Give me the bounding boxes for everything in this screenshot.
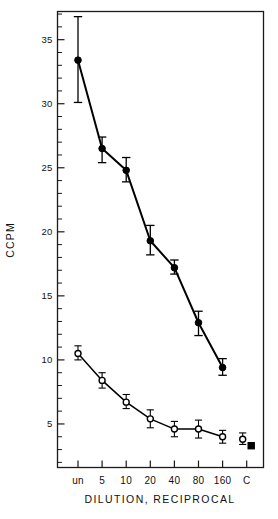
series-control-open-circle (239, 433, 246, 445)
data-point-open-circle (99, 377, 105, 383)
data-point-filled-circle (75, 57, 82, 64)
data-point-filled-circle (147, 237, 154, 244)
data-series-layer (74, 17, 255, 449)
x-axis-tick-label: 80 (193, 475, 205, 486)
data-point-open-circle (196, 426, 202, 432)
series-filled-circle-series (74, 17, 227, 376)
x-axis-title: DILUTION, RECIPROCAL (84, 493, 235, 505)
data-point-filled-circle (171, 264, 178, 271)
x-axis-tick-label: 20 (144, 475, 156, 486)
x-axis-tick-label: 40 (169, 475, 181, 486)
data-point-filled-square (248, 443, 254, 449)
data-point-open-circle (171, 426, 177, 432)
y-axis-tick-label: 5 (47, 418, 52, 429)
series-open-circle-series (74, 346, 226, 443)
ccpm-dilution-line-chart: 5101520253035 un510204080160C DILUTION, … (0, 0, 278, 519)
x-axis-ticks (78, 461, 247, 468)
y-axis-tick-label: 10 (42, 354, 53, 365)
y-axis-tick-label: 15 (42, 290, 53, 301)
y-axis-ticks (58, 14, 65, 462)
x-axis-tick-label: 5 (99, 475, 105, 486)
data-point-filled-circle (123, 167, 130, 174)
data-point-filled-circle (195, 319, 202, 326)
y-axis-title: CCPM (4, 222, 16, 258)
series-control-filled-square (248, 443, 254, 449)
plot-frame (58, 12, 264, 468)
y-axis-tick-label: 30 (42, 98, 53, 109)
x-axis-tick-label: 10 (120, 475, 132, 486)
data-point-filled-circle (99, 145, 106, 152)
data-point-open-circle (240, 436, 246, 442)
x-axis-tick-label: 160 (214, 475, 232, 486)
data-point-open-circle (220, 434, 226, 440)
data-point-open-circle (147, 416, 153, 422)
figure-panel: 5101520253035 un510204080160C DILUTION, … (0, 0, 278, 519)
data-point-filled-circle (219, 364, 226, 371)
data-point-open-circle (75, 351, 81, 357)
x-axis-tick-labels: un510204080160C (72, 475, 250, 486)
y-axis-tick-label: 25 (42, 162, 53, 173)
x-axis-tick-label: C (243, 475, 251, 486)
data-point-open-circle (123, 399, 129, 405)
x-axis-tick-label: un (72, 475, 84, 486)
y-axis-tick-label: 35 (42, 34, 53, 45)
y-axis-tick-label: 20 (42, 226, 53, 237)
y-axis-tick-labels: 5101520253035 (42, 34, 53, 429)
